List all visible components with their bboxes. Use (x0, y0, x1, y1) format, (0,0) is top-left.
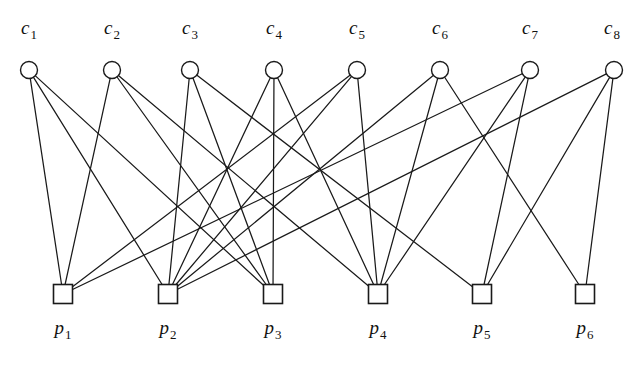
label-subscript: 8 (612, 27, 620, 42)
label-letter: p (265, 317, 275, 338)
label-subscript: 5 (483, 327, 491, 342)
check-node-label-c4: c4 (266, 18, 282, 41)
check-node-label-c2: c2 (104, 18, 120, 41)
check-nodes-layer (21, 62, 623, 79)
graph-edge (277, 77, 373, 284)
label-subscript: 6 (440, 27, 448, 42)
variable-node-label-p4: p4 (370, 318, 387, 341)
check-node-c5[interactable] (349, 62, 366, 79)
check-node-label-c1: c1 (21, 18, 37, 41)
graph-edge (193, 78, 270, 285)
check-node-c4[interactable] (266, 62, 283, 79)
graph-edge (273, 78, 274, 285)
graph-edge (73, 73, 523, 289)
check-node-c3[interactable] (182, 62, 199, 79)
graph-canvas (0, 0, 637, 365)
label-subscript: 2 (112, 27, 120, 42)
check-node-label-c8: c8 (604, 18, 620, 41)
variable-nodes-layer (54, 285, 595, 304)
label-subscript: 1 (29, 27, 37, 42)
graph-edge (358, 78, 377, 285)
variable-node-p1[interactable] (54, 285, 73, 304)
check-node-c6[interactable] (432, 62, 449, 79)
graph-edge (178, 74, 607, 290)
label-subscript: 3 (274, 327, 282, 342)
graph-edge (169, 78, 189, 285)
label-letter: p (370, 317, 380, 338)
check-node-label-c5: c5 (349, 18, 365, 41)
graph-edge (73, 75, 351, 287)
variable-node-p5[interactable] (473, 285, 492, 304)
variable-node-p2[interactable] (159, 285, 178, 304)
tanner-graph-figure: c1c2c3c4c5c6c7c8p1p2p3p4p5p6 (0, 0, 637, 365)
variable-node-p6[interactable] (576, 285, 595, 304)
label-letter: p (55, 317, 65, 338)
graph-edge (35, 75, 264, 285)
variable-node-label-p3: p3 (265, 318, 282, 341)
label-subscript: 5 (357, 27, 365, 42)
label-subscript: 7 (530, 27, 538, 42)
graph-edge (33, 77, 162, 285)
label-subscript: 1 (64, 327, 72, 342)
check-node-c1[interactable] (21, 62, 38, 79)
graph-edge (586, 78, 613, 285)
check-node-label-c7: c7 (522, 18, 538, 41)
graph-edge (178, 75, 434, 286)
label-letter: p (474, 317, 484, 338)
check-node-c2[interactable] (104, 62, 121, 79)
edges-layer (30, 73, 613, 289)
graph-edge (196, 75, 472, 287)
graph-edge (444, 77, 578, 285)
check-node-c7[interactable] (522, 62, 539, 79)
label-subscript: 3 (190, 27, 198, 42)
variable-node-label-p2: p2 (160, 318, 177, 341)
variable-node-label-p6: p6 (577, 318, 594, 341)
graph-edge (173, 77, 271, 284)
variable-node-label-p5: p5 (474, 318, 491, 341)
graph-edge (384, 77, 525, 285)
graph-edge (118, 75, 368, 286)
label-subscript: 6 (586, 327, 594, 342)
label-subscript: 2 (169, 327, 177, 342)
label-subscript: 4 (379, 327, 387, 342)
variable-node-p4[interactable] (369, 285, 388, 304)
check-node-c8[interactable] (606, 62, 623, 79)
label-letter: p (577, 317, 587, 338)
check-node-label-c3: c3 (182, 18, 198, 41)
check-node-label-c6: c6 (432, 18, 448, 41)
graph-edge (30, 78, 61, 285)
variable-node-p3[interactable] (264, 285, 283, 304)
label-subscript: 4 (274, 27, 282, 42)
variable-node-label-p1: p1 (55, 318, 72, 341)
label-letter: p (160, 317, 170, 338)
